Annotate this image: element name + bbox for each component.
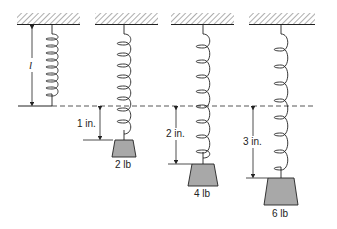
- extension-dimension-2in: 2 in.: [164, 108, 192, 164]
- ceiling-1: [17, 13, 80, 25]
- extension-label-2in: 2 in.: [166, 128, 185, 139]
- natural-length-dimension: l: [27, 27, 37, 104]
- ceiling-4: [249, 13, 315, 25]
- extension-dimension-1in: 1 in.: [77, 108, 113, 140]
- ceiling-supports: [17, 13, 315, 25]
- spring-4lb: [196, 25, 210, 164]
- spring-6lb: [274, 25, 288, 178]
- weight-4lb: [188, 164, 218, 186]
- weight-6lb: [264, 178, 298, 205]
- natural-length-label: l: [29, 59, 32, 71]
- extension-label-3in: 3 in.: [243, 136, 262, 147]
- ceiling-3: [171, 13, 234, 25]
- spring-diagram: l 2 lb 1 in. 4 lb 2 in. 6 lb 3 in.: [0, 0, 337, 229]
- weight-2lb: [112, 140, 136, 157]
- extension-label-1in: 1 in.: [77, 118, 96, 129]
- extension-dimension-3in: 3 in.: [241, 108, 268, 178]
- ceiling-2: [95, 13, 158, 25]
- weight-label-4lb: 4 lb: [194, 188, 211, 199]
- weight-label-6lb: 6 lb: [272, 208, 289, 219]
- spring-unloaded: [18, 25, 58, 106]
- weight-label-2lb: 2 lb: [115, 159, 132, 170]
- spring-2lb: [117, 25, 131, 140]
